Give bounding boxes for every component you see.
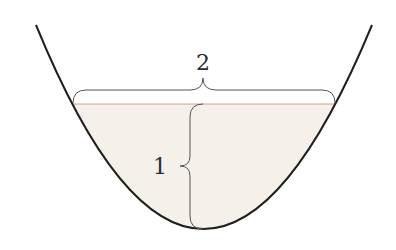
width-brace <box>73 78 335 103</box>
parabola-diagram: 2 1 <box>0 0 396 250</box>
width-label: 2 <box>196 52 210 74</box>
diagram-svg <box>0 0 396 250</box>
depth-label: 1 <box>153 156 167 178</box>
